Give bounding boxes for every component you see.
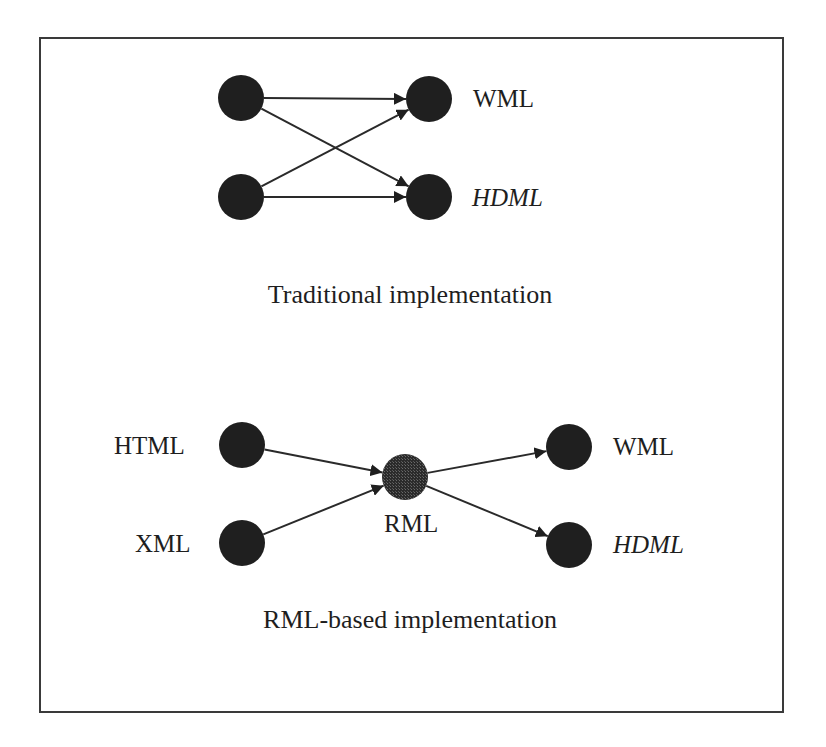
node-label-hdml: HDML bbox=[471, 184, 543, 211]
node-xml bbox=[219, 520, 265, 566]
rml-based-caption: RML-based implementation bbox=[263, 605, 557, 634]
traditional-caption: Traditional implementation bbox=[268, 280, 552, 309]
node-src1 bbox=[218, 75, 264, 121]
node-hdml2 bbox=[546, 522, 592, 568]
arrow-xml-to-rml bbox=[263, 486, 383, 535]
node-label-wml: WML bbox=[473, 85, 534, 112]
node-wml bbox=[406, 76, 452, 122]
node-rml bbox=[382, 454, 428, 500]
diagram-canvas: WMLHDMLTraditional implementation HTMLXM… bbox=[0, 0, 826, 747]
node-label-xml: XML bbox=[135, 530, 191, 557]
node-hdml bbox=[406, 174, 452, 220]
node-label-rml: RML bbox=[384, 510, 438, 537]
rml-based-implementation-diagram: HTMLXMLRMLWMLHDMLRML-based implementatio… bbox=[114, 422, 684, 634]
node-label-hdml2: HDML bbox=[612, 531, 684, 558]
arrow-rml-to-wml2 bbox=[428, 451, 547, 473]
arrow-src1-to-wml bbox=[264, 98, 406, 99]
arrow-html-to-rml bbox=[265, 449, 383, 472]
node-label-html: HTML bbox=[114, 432, 185, 459]
node-html bbox=[219, 422, 265, 468]
arrow-rml-to-hdml2 bbox=[426, 486, 548, 536]
traditional-implementation-diagram: WMLHDMLTraditional implementation bbox=[218, 75, 552, 309]
node-src2 bbox=[218, 174, 264, 220]
node-label-wml2: WML bbox=[613, 433, 674, 460]
node-wml2 bbox=[546, 424, 592, 470]
